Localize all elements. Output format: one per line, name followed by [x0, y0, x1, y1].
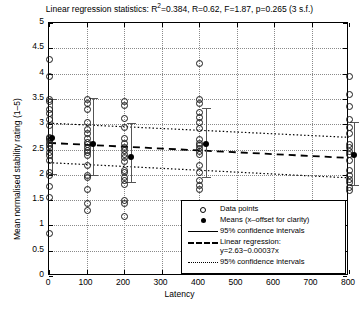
y-tick-label: 0.5 [14, 244, 44, 254]
x-axis-title: Latency [0, 289, 359, 299]
data-point [121, 200, 128, 207]
legend-label: Means (x–offset for clarity) [220, 215, 341, 224]
legend-item: 95% confidence intervals [186, 257, 341, 267]
data-point [46, 172, 53, 179]
error-bar-cap-upper [127, 123, 136, 124]
legend-key [186, 237, 220, 247]
data-point [196, 186, 203, 193]
x-tick-label: 300 [141, 277, 181, 287]
dotted-line-icon [188, 262, 218, 263]
y-tick-label: 4.5 [14, 41, 44, 51]
legend-key [186, 226, 220, 236]
error-bar-cap-upper [89, 98, 98, 99]
data-point [196, 151, 203, 158]
y-tick-label: 4 [14, 67, 44, 77]
data-point [84, 106, 91, 113]
x-tick-bottom [349, 270, 350, 274]
chart-title-suffix: =0.384, R=0.62, F=1.87, p=0.265 (3 s.f.) [161, 4, 313, 14]
legend-label-line2: y=2.63−0.00037x [220, 246, 341, 255]
error-bar-cap-lower [127, 182, 136, 183]
data-point [196, 100, 203, 107]
error-bar [93, 98, 94, 175]
x-tick-label: 700 [291, 277, 331, 287]
data-point [46, 194, 53, 201]
legend-label: 95% confidence intervals [220, 257, 341, 266]
legend-label: Linear regression:y=2.63−0.00037x [220, 237, 341, 256]
chart-title-prefix: Linear regression statistics: R [46, 4, 158, 14]
open-circle-icon [200, 207, 206, 213]
x-tick-label: 600 [253, 277, 293, 287]
data-point [46, 230, 53, 237]
x-tick-label: 800 [328, 277, 359, 287]
x-tick-label: 400 [178, 277, 218, 287]
data-point [196, 162, 203, 169]
x-tick-label: 500 [216, 277, 256, 287]
legend-item: 95% confidence intervals [186, 226, 341, 236]
legend-label: 95% confidence intervals [220, 226, 341, 235]
x-tick-top [349, 23, 350, 27]
legend-label: Data points [220, 204, 341, 213]
data-point [121, 124, 128, 131]
chart-title: Linear regression statistics: R2=0.384, … [0, 1, 359, 14]
filled-circle-icon [201, 218, 206, 223]
data-point [84, 174, 91, 181]
y-tick-label: 5 [14, 16, 44, 26]
data-point [84, 162, 91, 169]
data-point [84, 119, 91, 126]
data-point [346, 157, 353, 164]
data-point [346, 73, 353, 80]
dashed-line-icon [188, 242, 218, 244]
mean-marker [128, 154, 134, 160]
y-tick-label: 0 [14, 269, 44, 279]
data-point [346, 103, 353, 110]
data-point [121, 102, 128, 109]
x-tick-label: 200 [103, 277, 143, 287]
data-point [121, 158, 128, 165]
data-point [84, 207, 91, 214]
error-bar-cap-lower [202, 177, 211, 178]
data-point [84, 186, 91, 193]
legend-item: Data points [186, 204, 341, 214]
legend-item: Linear regression:y=2.63−0.00037x [186, 237, 341, 256]
x-tick-label: 100 [66, 277, 106, 287]
data-point [121, 181, 128, 188]
error-bar [131, 123, 132, 182]
legend-key [186, 257, 220, 267]
chart-legend: Data pointsMeans (x–offset for clarity)9… [181, 200, 346, 274]
error-bar-cap-lower [89, 175, 98, 176]
mean-marker [351, 152, 357, 158]
legend-key [186, 204, 220, 214]
data-point [84, 152, 91, 159]
data-point [46, 157, 53, 164]
data-point [346, 130, 353, 137]
y-axis-title: Mean normalised stability rating (1–5) [12, 98, 22, 240]
data-point [346, 91, 353, 98]
solid-line-icon [188, 231, 218, 232]
error-bar-cap-upper [202, 108, 211, 109]
figure-container: Linear regression statistics: R2=0.384, … [0, 0, 359, 317]
data-point [46, 183, 53, 190]
legend-item: Means (x–offset for clarity) [186, 215, 341, 225]
data-point [84, 200, 91, 207]
legend-key [186, 215, 220, 225]
data-point [346, 187, 353, 194]
